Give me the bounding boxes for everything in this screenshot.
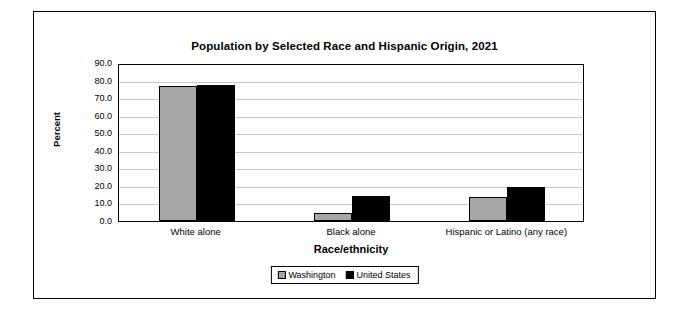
bar-united-states-0 bbox=[197, 85, 235, 221]
legend-swatch-washington bbox=[277, 271, 285, 279]
y-tick-label: 0.0 bbox=[78, 217, 112, 226]
y-tick-label: 60.0 bbox=[78, 112, 112, 121]
chart-title: Population by Selected Race and Hispanic… bbox=[34, 40, 655, 52]
y-tick-label: 40.0 bbox=[78, 147, 112, 156]
bar-washington-0 bbox=[159, 86, 197, 221]
bar-washington-2 bbox=[469, 197, 507, 221]
plot-area bbox=[118, 64, 584, 222]
y-tick-label: 90.0 bbox=[78, 59, 112, 68]
y-tick-label: 70.0 bbox=[78, 94, 112, 103]
bar-washington-1 bbox=[314, 213, 352, 221]
y-tick-label: 80.0 bbox=[78, 77, 112, 86]
y-tick-label: 10.0 bbox=[78, 199, 112, 208]
legend-item-united-states: United States bbox=[346, 270, 411, 280]
legend-item-washington: Washington bbox=[277, 270, 335, 280]
y-tick-label: 20.0 bbox=[78, 182, 112, 191]
chart-figure: Population by Selected Race and Hispanic… bbox=[33, 11, 656, 299]
bar-united-states-2 bbox=[507, 187, 545, 221]
x-tick-label: Hispanic or Latino (any race) bbox=[396, 226, 616, 237]
bar-united-states-1 bbox=[352, 196, 390, 221]
legend-swatch-united-states bbox=[346, 271, 354, 279]
y-tick-label: 30.0 bbox=[78, 164, 112, 173]
y-axis-title: Percent bbox=[51, 90, 62, 170]
x-axis-title: Race/ethnicity bbox=[118, 243, 584, 255]
y-axis-tick-labels: 0.010.020.030.040.050.060.070.080.090.0 bbox=[78, 64, 112, 222]
chart-legend: Washington United States bbox=[270, 266, 418, 284]
y-tick-label: 50.0 bbox=[78, 129, 112, 138]
legend-label-united-states: United States bbox=[357, 270, 411, 280]
legend-label-washington: Washington bbox=[288, 270, 335, 280]
gridline bbox=[119, 82, 583, 83]
